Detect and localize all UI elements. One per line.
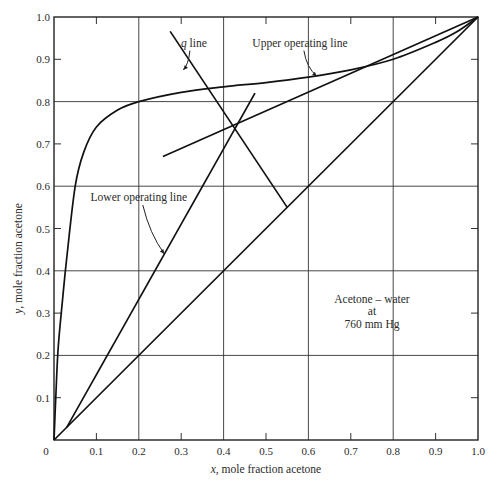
y-tick-label: 0.1 — [36, 392, 50, 404]
annotation-label: Lower operating line — [91, 191, 187, 204]
x-tick-labels: 0.10.20.30.40.50.60.70.80.91.0 — [90, 445, 486, 457]
annotation-label: Upper operating line — [252, 37, 347, 50]
series-lower-operating-line — [67, 93, 255, 427]
series-diagonal-y-x — [54, 17, 478, 440]
mccabe-thiele-chart: 0.10.20.30.40.50.60.70.80.91.0 0.10.20.3… — [0, 0, 499, 484]
annotation-label: q line — [181, 37, 207, 50]
y-tick-label: 0.4 — [36, 265, 50, 277]
x-tick-label: 0.5 — [259, 445, 273, 457]
annotation-arrow — [143, 205, 164, 254]
y-tick-label: 0.9 — [36, 53, 50, 65]
y-tick-label: 0.2 — [36, 349, 50, 361]
origin-label: 0 — [43, 445, 49, 457]
y-tick-label: 0.6 — [36, 180, 50, 192]
y-tick-label: 0.5 — [36, 223, 50, 235]
x-tick-label: 0.6 — [302, 445, 316, 457]
annotation-label: 760 mm Hg — [345, 318, 400, 331]
x-tick-label: 0.1 — [90, 445, 104, 457]
x-tick-label: 1.0 — [471, 445, 485, 457]
series-q-line — [170, 31, 287, 207]
annotation-label: at — [368, 305, 377, 317]
x-tick-label: 0.4 — [217, 445, 231, 457]
annotation-label: Acetone – water — [334, 293, 410, 305]
y-tick-label: 0.3 — [36, 307, 50, 319]
y-tick-label: 0.7 — [36, 138, 50, 150]
y-tick-label: 1.0 — [36, 11, 50, 23]
data-series — [54, 17, 478, 440]
x-tick-label: 0.7 — [344, 445, 358, 457]
y-axis-label: y, mole fraction acetone — [12, 203, 25, 314]
arrowhead-icon — [160, 249, 164, 254]
y-tick-label: 0.8 — [36, 96, 50, 108]
x-axis-label: x, mole fraction acetone — [210, 463, 321, 476]
x-tick-label: 0.9 — [429, 445, 443, 457]
x-tick-label: 0.3 — [174, 445, 188, 457]
x-tick-label: 0.2 — [132, 445, 146, 457]
x-tick-label: 0.8 — [386, 445, 400, 457]
y-tick-labels: 0.10.20.30.40.50.60.70.80.91.0 — [36, 11, 50, 404]
